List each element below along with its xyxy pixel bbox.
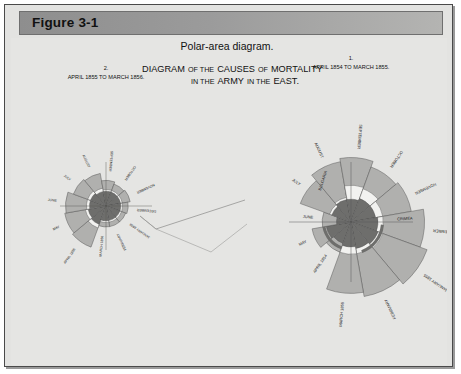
polar-area-diagram-svg: Polar-area diagram. DIAGRAMOF THECAUSESO…	[11, 38, 447, 365]
diagram-canvas: Polar-area diagram. DIAGRAMOF THECAUSESO…	[11, 38, 447, 365]
month-label: JUNE	[48, 198, 58, 203]
month-label: DECEMBER	[433, 228, 447, 235]
figure-header-bar: Figure 3-1	[19, 11, 443, 35]
month-label: JUNE	[303, 214, 314, 220]
panel-1-number: 1.	[349, 55, 354, 61]
figure-number-label: Figure 3-1	[32, 15, 99, 30]
diagram-title-line1: DIAGRAMOF THECAUSESOFMORTALITY	[142, 64, 323, 74]
panel-2-number: 2.	[104, 65, 109, 71]
polar-area-caption: Polar-area diagram.	[181, 40, 274, 52]
panel-2-range: APRIL 1855 TO MARCH 1856.	[68, 74, 145, 80]
panel-1-range: APRIL 1854 TO MARCH 1855.	[313, 64, 390, 70]
figure-frame: Figure 3-1 Polar-area diagram. DIAGRAMOF…	[4, 4, 453, 367]
